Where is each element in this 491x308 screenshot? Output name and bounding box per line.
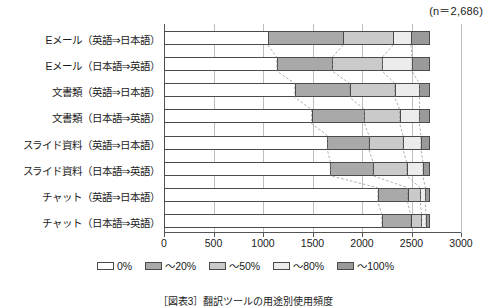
legend-item: ～20% [145, 258, 196, 273]
bar-segment [378, 188, 408, 202]
category-label: Eメール（日本語⇒英語） [0, 58, 160, 73]
category-label: 文書類（日本語⇒英語） [0, 110, 160, 125]
legend-label: ～20% [165, 258, 196, 273]
bar-segment [395, 83, 420, 97]
stacked-bar [164, 83, 430, 97]
legend-item: ～100% [337, 258, 394, 273]
bar-segment [426, 214, 430, 228]
legend-swatch [209, 262, 226, 270]
legend-swatch [337, 262, 354, 270]
category-label: スライド資料（日本語⇒英語） [0, 163, 160, 178]
bar-segment [364, 109, 399, 123]
bar-segment [268, 31, 343, 45]
bar-segment [350, 83, 395, 97]
bar-segment [393, 31, 411, 45]
category-label: チャット（英語⇒日本語） [0, 189, 160, 204]
legend-label: 0% [117, 260, 132, 272]
bar-segment [164, 57, 277, 71]
bar-segment [164, 31, 268, 45]
x-tick-label: 500 [205, 237, 223, 249]
bar-segment [295, 83, 350, 97]
bar-segment [412, 57, 430, 71]
plot-area [164, 24, 461, 233]
legend-item: ～50% [209, 258, 260, 273]
legend-item: 0% [97, 260, 132, 272]
bar-segment [369, 136, 403, 150]
category-label: Eメール（英語⇒日本語） [0, 32, 160, 47]
stacked-bar [164, 188, 430, 202]
bar-segment [407, 162, 423, 176]
legend-label: ～50% [229, 258, 260, 273]
bar-segment [382, 214, 411, 228]
bar-segment [164, 109, 312, 123]
bar-segment [411, 31, 430, 45]
bar-segment [411, 214, 422, 228]
x-tick-label: 1500 [301, 237, 324, 249]
figure-caption: ［図表3］翻訳ツールの用途別使用頻度 [0, 293, 491, 308]
category-label: 文書類（英語⇒日本語） [0, 84, 160, 99]
bar-segment [164, 136, 327, 150]
category-label: スライド資料（英語⇒日本語） [0, 137, 160, 152]
x-tick-label: 2000 [350, 237, 373, 249]
stacked-bar [164, 214, 430, 228]
stacked-bar [164, 57, 430, 71]
x-tick-label: 0 [161, 237, 167, 249]
stacked-bar [164, 31, 430, 45]
bar-segment [312, 109, 365, 123]
legend-swatch [273, 262, 290, 270]
bar-segment [343, 31, 393, 45]
category-label: チャット（日本語⇒英語） [0, 215, 160, 230]
stacked-bar [164, 109, 430, 123]
bar-segment [373, 162, 407, 176]
legend: 0%～20%～50%～80%～100% [0, 258, 491, 273]
bar-segment [403, 136, 421, 150]
bar-segment [164, 83, 295, 97]
stacked-bar [164, 162, 430, 176]
bar-segment [164, 188, 378, 202]
x-tick-label: 3000 [449, 237, 472, 249]
bar-segment [419, 83, 429, 97]
x-tick-label: 1000 [251, 237, 274, 249]
bar-segment [164, 214, 382, 228]
bar-segment [408, 188, 421, 202]
legend-swatch [145, 262, 162, 270]
bar-segment [164, 162, 330, 176]
bar-segment [277, 57, 332, 71]
bar-segment [400, 109, 420, 123]
bar-segment [382, 57, 412, 71]
bar-segment [425, 188, 430, 202]
x-tick-label: 2500 [400, 237, 423, 249]
bar-segment [419, 109, 429, 123]
legend-item: ～80% [273, 258, 324, 273]
legend-label: ～80% [293, 258, 324, 273]
legend-label: ～100% [357, 258, 394, 273]
bar-segment [332, 57, 382, 71]
bar-segment [421, 136, 430, 150]
legend-swatch [97, 262, 114, 270]
bar-segment [330, 162, 373, 176]
bar-segment [423, 162, 430, 176]
sample-size-annotation: (n＝2,686) [429, 2, 483, 18]
bar-segment [327, 136, 369, 150]
stacked-bar [164, 136, 430, 150]
gridline [461, 24, 462, 233]
